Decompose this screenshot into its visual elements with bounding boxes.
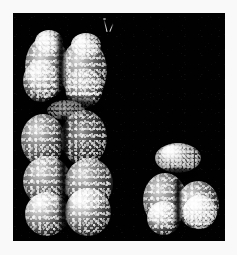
surface-granule (39, 174, 41, 176)
short-arm-right-tip-texture (71, 33, 101, 57)
surface-granule (159, 211, 161, 213)
surface-granule (91, 78, 93, 80)
short-arm-left-mid-texture (23, 60, 59, 102)
surface-granule (81, 136, 83, 138)
thread-artifact-branch (109, 23, 113, 32)
long-arm-right-terminal-texture (65, 188, 111, 236)
short-arm-left-tip-texture (35, 30, 63, 54)
small-long-arm-right-terminal-texture (183, 195, 217, 229)
surface-granule (173, 163, 176, 165)
surface-granule (197, 203, 199, 205)
small-short-arm-highlight (161, 145, 185, 163)
thread-artifact (103, 19, 107, 32)
thread-artifact-tip (103, 18, 106, 20)
surface-granule (33, 50, 35, 52)
large-chromosome (21, 16, 121, 238)
small-chromosome (139, 141, 225, 241)
micrograph-plate (13, 13, 225, 241)
long-arm-left-terminal-texture (25, 192, 69, 236)
surface-granule (47, 212, 49, 214)
micrograph-page (0, 0, 237, 255)
small-long-arm-left-terminal-texture (147, 201, 181, 235)
